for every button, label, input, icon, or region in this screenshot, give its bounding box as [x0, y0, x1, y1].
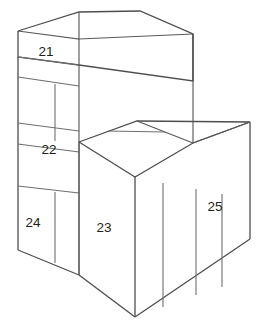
block-label-21: 21 [38, 44, 53, 59]
figure-root: 21 22 23 24 25 [0, 0, 268, 328]
isometric-block-diagram: 21 22 23 24 25 [0, 0, 268, 328]
block-label-24: 24 [25, 215, 41, 230]
block-label-22: 22 [41, 142, 56, 157]
block-label-23: 23 [96, 220, 111, 235]
middle-step-right-face [135, 122, 250, 317]
block-label-25: 25 [207, 199, 222, 214]
upper-block-right-band-face [79, 34, 193, 81]
tall-left-column-face [18, 57, 79, 275]
